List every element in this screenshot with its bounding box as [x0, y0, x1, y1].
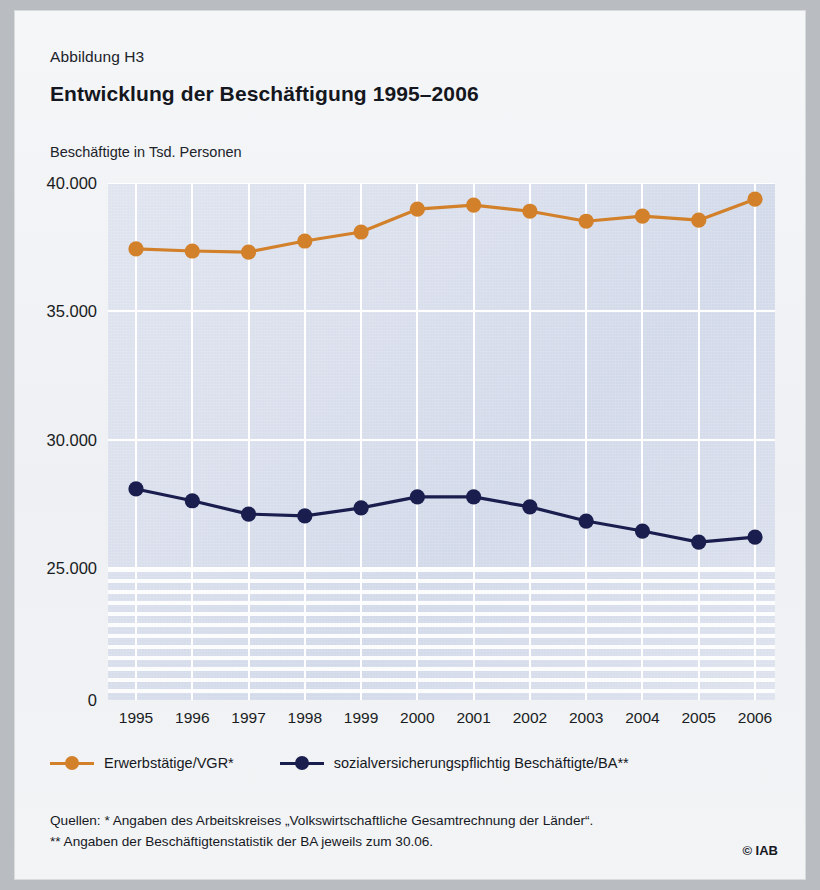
data-point[interactable] [466, 489, 481, 504]
plot-background [108, 183, 775, 700]
legend-swatch-line-marker-icon [280, 756, 324, 770]
x-tick-label: 2003 [569, 709, 603, 727]
data-point[interactable] [185, 243, 200, 258]
y-tick-label: 40.000 [47, 174, 97, 193]
data-point[interactable] [635, 209, 650, 224]
series-line [136, 489, 755, 542]
series-line [136, 199, 755, 252]
y-axis-caption: Beschäftigte in Tsd. Personen [50, 144, 242, 160]
data-point[interactable] [635, 523, 650, 538]
data-point[interactable] [522, 499, 537, 514]
data-point[interactable] [522, 204, 537, 219]
data-point[interactable] [579, 214, 594, 229]
data-point[interactable] [297, 233, 312, 248]
source-line-1: Quellen: * Angaben des Arbeitskreises „V… [50, 810, 770, 831]
x-tick-label: 1999 [344, 709, 378, 727]
x-tick-label: 2001 [456, 709, 490, 727]
chart-legend: Erwerbstätige/VGR* sozialversicherungspf… [50, 755, 629, 771]
data-point[interactable] [297, 508, 312, 523]
data-point[interactable] [241, 244, 256, 259]
y-tick-label: 0 [88, 691, 97, 710]
x-tick-label: 2000 [400, 709, 434, 727]
data-point[interactable] [747, 530, 762, 545]
chart-area: 40.00035.00030.00025.0000 19951996199719… [108, 173, 775, 700]
source-notes: Quellen: * Angaben des Arbeitskreises „V… [50, 810, 770, 852]
y-tick-label: 35.000 [47, 302, 97, 321]
series-lines [108, 183, 775, 700]
x-tick-label: 2006 [738, 709, 772, 727]
x-tick-label: 2002 [513, 709, 547, 727]
x-tick-label: 1997 [231, 709, 265, 727]
data-point[interactable] [410, 489, 425, 504]
source-line-2: ** Angaben der Beschäftigtenstatistik de… [50, 831, 770, 852]
data-point[interactable] [747, 192, 762, 207]
page-title: Entwicklung der Beschäftigung 1995–2006 [50, 82, 479, 106]
figure-label: Abbildung H3 [50, 48, 144, 66]
data-point[interactable] [410, 202, 425, 217]
x-tick-label: 2004 [625, 709, 659, 727]
data-point[interactable] [691, 213, 706, 228]
data-point[interactable] [128, 481, 143, 496]
x-tick-label: 1996 [175, 709, 209, 727]
data-point[interactable] [128, 241, 143, 256]
data-point[interactable] [353, 500, 368, 515]
copyright-notice: © IAB [742, 843, 778, 858]
x-tick-label: 2005 [681, 709, 715, 727]
x-tick-label: 1998 [288, 709, 322, 727]
figure-card: Abbildung H3 Entwicklung der Beschäftigu… [14, 10, 806, 880]
data-point[interactable] [241, 507, 256, 522]
legend-item-label: sozialversicherungspflichtig Beschäftigt… [334, 755, 629, 771]
data-point[interactable] [466, 197, 481, 212]
legend-item-label: Erwerbstätige/VGR* [104, 755, 234, 771]
y-tick-label: 25.000 [47, 559, 97, 578]
figure-page: Abbildung H3 Entwicklung der Beschäftigu… [0, 0, 820, 890]
x-tick-label: 1995 [119, 709, 153, 727]
legend-swatch-line-marker-icon [50, 756, 94, 770]
data-point[interactable] [185, 493, 200, 508]
data-point[interactable] [691, 534, 706, 549]
y-tick-label: 30.000 [47, 430, 97, 449]
legend-item-erwerbstaetige[interactable]: Erwerbstätige/VGR* [50, 755, 234, 771]
data-point[interactable] [353, 224, 368, 239]
legend-item-sozialversicherungspflichtig[interactable]: sozialversicherungspflichtig Beschäftigt… [280, 755, 629, 771]
data-point[interactable] [579, 513, 594, 528]
